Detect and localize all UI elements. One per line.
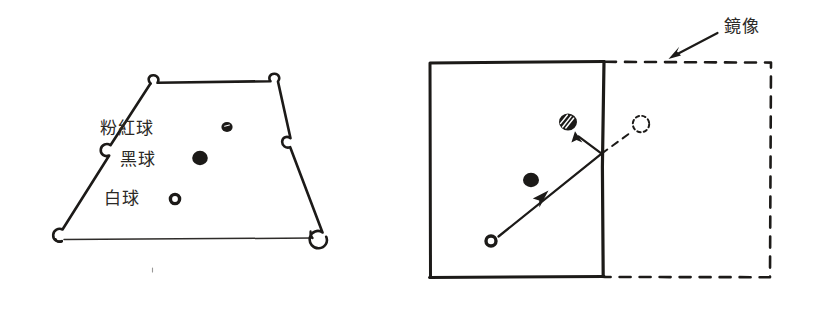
ball-white [170, 194, 179, 203]
label-mirror-image: 鏡像 [724, 16, 760, 36]
solid-table-bottom-edge [430, 277, 605, 278]
billiards-mirror-figure: 粉紅球 黑球 白球 [0, 0, 818, 310]
path-cue-to-cushion [499, 154, 602, 237]
mirror-label-pointer-line [676, 33, 718, 55]
ball-pink-hatched [559, 113, 577, 130]
label-black-ball: 黑球 [120, 149, 156, 169]
right-mirror-group: 鏡像 [430, 16, 772, 277]
ball-cue-white [486, 236, 496, 246]
label-pink-ball: 粉紅球 [100, 118, 154, 138]
ball-pink [221, 122, 232, 132]
table-rail-outline [149, 74, 327, 248]
mirror-table-outline [605, 62, 772, 277]
solid-table-outline [430, 62, 604, 277]
table-rail-bottom [64, 238, 313, 240]
path-cushion-to-mirror-image [602, 131, 633, 154]
cushion-mirror-line [602, 62, 604, 277]
ball-black [192, 151, 208, 165]
figure-canvas: 粉紅球 黑球 白球 [0, 0, 818, 310]
left-table-group: 粉紅球 黑球 白球 [53, 74, 327, 272]
ball-black [523, 173, 539, 187]
path-cushion-to-pink [578, 136, 601, 153]
label-white-ball: 白球 [104, 188, 140, 208]
ball-mirrored-pink-dashed [633, 116, 649, 132]
